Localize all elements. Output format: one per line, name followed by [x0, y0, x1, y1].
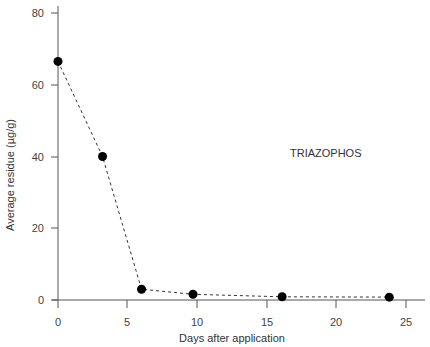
x-tick-label: 0 — [55, 316, 61, 328]
x-tick-label: 10 — [191, 316, 203, 328]
x-tick-label: 20 — [330, 316, 342, 328]
x-ticks: 0 5 10 15 20 25 — [55, 300, 412, 328]
chart: 0 20 40 60 80 0 5 10 15 20 25 Days after… — [0, 0, 430, 347]
x-tick-label: 5 — [124, 316, 130, 328]
data-point-marker — [137, 285, 146, 294]
series-annotation: TRIAZOPHOS — [290, 147, 362, 159]
x-tick-label: 25 — [400, 316, 412, 328]
x-tick-label: 15 — [261, 316, 273, 328]
x-axis-title: Days after application — [179, 332, 285, 344]
y-tick-label: 0 — [38, 294, 44, 306]
data-point-marker — [278, 292, 287, 301]
y-tick-label: 60 — [32, 79, 44, 91]
data-series — [54, 57, 394, 302]
y-tick-label: 40 — [32, 151, 44, 163]
data-point-marker — [54, 57, 63, 66]
data-point-marker — [189, 290, 198, 299]
series-line — [58, 61, 389, 297]
y-ticks: 0 20 40 60 80 — [32, 7, 58, 306]
data-point-marker — [385, 293, 394, 302]
data-point-marker — [98, 152, 107, 161]
y-tick-label: 80 — [32, 7, 44, 19]
y-tick-label: 20 — [32, 222, 44, 234]
y-axis-title: Average residue (µg/g) — [4, 119, 16, 231]
